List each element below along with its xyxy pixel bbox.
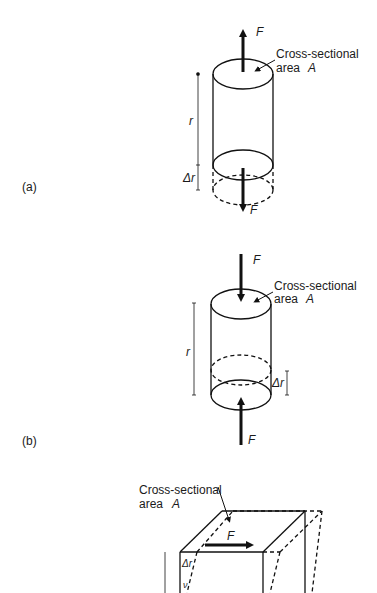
area-symbol-b: A (305, 292, 314, 306)
force-label-bottom-b: F (248, 433, 256, 447)
force-label-top-a: F (256, 25, 264, 39)
force-label-c: F (227, 529, 235, 543)
panel-c (165, 487, 322, 593)
area-label-a-1: Cross-sectional (276, 47, 359, 61)
partial-label-c: ν (183, 580, 188, 590)
force-label-bottom-a: F (250, 203, 258, 217)
panel-label-b: (b) (22, 434, 37, 448)
delta-label-c: Δr (181, 558, 193, 569)
area-label-b-1: Cross-sectional (274, 279, 357, 293)
panel-label-a: (a) (22, 180, 37, 194)
length-label-b: r (186, 345, 191, 359)
area-label-c-2: area (139, 497, 163, 511)
area-label-c-1: Cross-sectional (139, 483, 222, 497)
panel-a (196, 33, 275, 208)
area-label-b-2: area (274, 292, 298, 306)
force-label-top-b: F (253, 253, 261, 267)
area-symbol-c: A (171, 497, 180, 511)
area-symbol-a: A (307, 61, 316, 75)
length-label-a: r (189, 114, 194, 128)
area-label-a-2: area (276, 61, 300, 75)
delta-label-a: Δr (182, 171, 196, 185)
delta-label-b: Δr (271, 376, 285, 390)
stress-strain-diagram: F Cross-sectional area A r Δr F (a) F Cr… (0, 0, 377, 593)
